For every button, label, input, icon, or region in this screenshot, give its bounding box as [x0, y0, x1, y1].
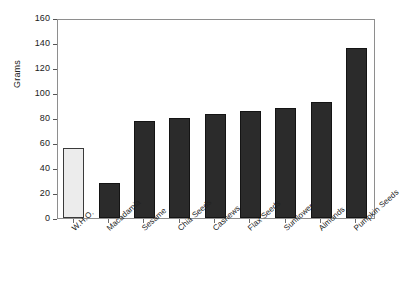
y-axis-tick: 160 [0, 19, 57, 20]
bar-w-h-o [63, 148, 84, 218]
y-axis-tick: 140 [0, 44, 57, 45]
y-axis-tick: 100 [0, 94, 57, 95]
y-axis-tick-label: 20 [40, 188, 50, 198]
bar-chia-seeds [169, 118, 190, 218]
y-axis-tick: 60 [0, 144, 57, 145]
y-axis-tick-label: 160 [35, 13, 50, 23]
bar-macadamia [99, 183, 120, 218]
y-axis-tick-label: 80 [40, 113, 50, 123]
bar-almonds [311, 102, 332, 218]
bar-pumpkin-seeds [346, 48, 367, 218]
bar-flax-seeds [240, 111, 261, 219]
plot-area [57, 19, 375, 219]
y-axis-tick-mark [53, 219, 57, 220]
y-axis-tick-label: 120 [35, 63, 50, 73]
bars-group [58, 20, 374, 218]
y-axis-tick-label: 60 [40, 138, 50, 148]
y-axis-tick: 120 [0, 69, 57, 70]
y-axis-tick: 0 [0, 219, 57, 220]
y-axis-tick: 20 [0, 194, 57, 195]
y-axis-tick: 80 [0, 119, 57, 120]
y-axis-tick-label: 140 [35, 38, 50, 48]
y-axis-tick-label: 0 [45, 213, 50, 223]
y-axis-tick: 40 [0, 169, 57, 170]
y-axis-tick-label: 40 [40, 163, 50, 173]
y-axis-title: Grams [12, 39, 26, 109]
y-axis-tick-label: 100 [35, 88, 50, 98]
